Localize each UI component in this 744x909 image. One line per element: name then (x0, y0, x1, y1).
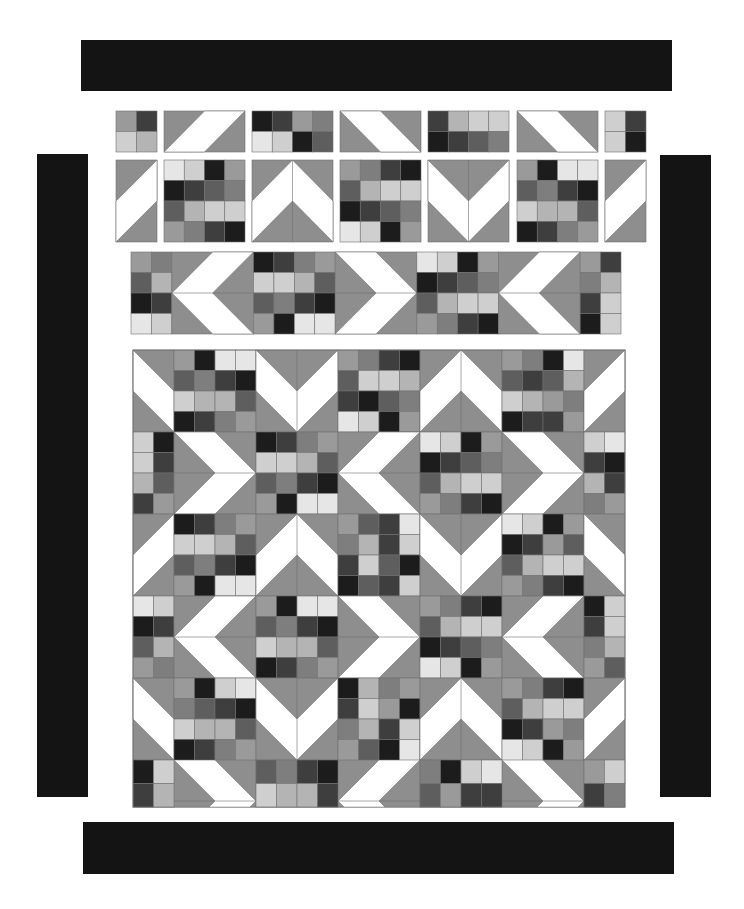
hst-strip (340, 111, 421, 152)
patch-block (584, 760, 625, 807)
patch-block (580, 252, 621, 334)
partial-chevron-right (174, 760, 256, 842)
patch-block (174, 514, 256, 596)
half-chevron-up (584, 514, 625, 596)
patch-block (517, 160, 598, 242)
chevron-block-left (338, 760, 420, 842)
patch-block (502, 514, 584, 596)
chevron-block-down (428, 160, 509, 242)
patch-block (133, 432, 174, 514)
hst-strip (605, 160, 646, 242)
chevron-block-right (502, 760, 584, 842)
chevron-block-right (338, 596, 420, 678)
patch-block (256, 432, 338, 514)
half-chevron-up (133, 514, 174, 596)
chevron-block-up (256, 514, 338, 596)
patch-block (338, 350, 420, 432)
chevron-block-left (502, 596, 584, 678)
chevron-block-left (174, 596, 256, 678)
chevron-block-down (420, 514, 502, 596)
hst-strip (116, 160, 157, 242)
half-chevron-down (133, 678, 174, 760)
patch-block (133, 760, 174, 807)
exploded-top-rows (116, 111, 646, 334)
patch-block (584, 596, 625, 678)
patch-block (338, 678, 420, 760)
patch-block (605, 111, 646, 152)
quilt-center (133, 350, 625, 842)
patch-block (254, 252, 336, 334)
patch-block (420, 596, 502, 678)
patch-block (428, 111, 509, 152)
patch-block (417, 252, 499, 334)
patch-block (502, 350, 584, 432)
chevron-block-up (420, 350, 502, 432)
patch-block (420, 432, 502, 514)
patch-block (420, 760, 502, 807)
chevron-block-right (335, 252, 417, 334)
chevron-block-down (256, 350, 338, 432)
patch-block (164, 160, 245, 242)
chevron-block-left (499, 252, 581, 334)
patch-block (174, 350, 256, 432)
patch-block (131, 252, 172, 334)
hst-strip (164, 111, 245, 152)
half-chevron-down (133, 350, 174, 432)
quilt-diagram (0, 0, 744, 909)
half-chevron-down (584, 350, 625, 432)
patch-block (256, 596, 338, 678)
chevron-block-left (338, 432, 420, 514)
chevron-block-left (172, 252, 254, 334)
patch-block (340, 160, 421, 242)
partial-chevron-left (338, 760, 420, 842)
chevron-block-right (174, 760, 256, 842)
hst-strip (517, 111, 598, 152)
patch-block (584, 432, 625, 514)
chevron-block-up (252, 160, 333, 242)
chevron-block-down (256, 678, 338, 760)
half-chevron-down (584, 678, 625, 760)
patch-block (256, 760, 338, 807)
chevron-block-up (420, 678, 502, 760)
patch-block (338, 514, 420, 596)
patch-block (252, 111, 333, 152)
chevron-block-right (174, 432, 256, 514)
patch-block (116, 111, 157, 152)
patch-block (174, 678, 256, 760)
patch-block (502, 678, 584, 760)
chevron-block-right (502, 432, 584, 514)
partial-chevron-right (502, 760, 584, 842)
patch-block (133, 596, 174, 678)
